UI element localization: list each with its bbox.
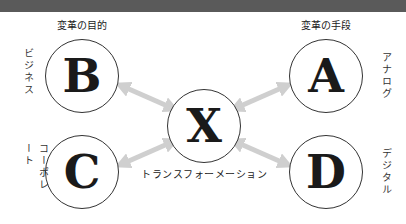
header-purpose: 変革の目的 [57,17,107,32]
node-c: C [45,135,119,209]
arrow-x-b [122,86,172,108]
node-a-letter: A [308,53,344,99]
node-a: A [289,39,363,113]
node-x-letter: X [186,103,222,149]
label-corporate: コーポレート [20,143,50,197]
diagram-canvas: 変革の目的 変革の手段 B ビジネス C コーポレート X トランスフォーメーシ… [0,0,406,224]
label-analog: アナログ [378,52,393,100]
node-c-letter: C [64,149,101,195]
arrow-x-a [236,86,286,108]
node-b: B [45,39,119,113]
arrow-x-d [236,142,286,164]
arrow-x-c [122,142,172,164]
node-b-letter: B [63,53,102,99]
label-digital: デジタル [378,148,393,196]
header-means: 変革の手段 [301,17,351,32]
node-d-letter: D [306,149,346,195]
label-business: ビジネス [20,48,35,96]
node-d: D [289,135,363,209]
caption-transformation: トランスフォーメーション [141,166,267,181]
node-x: X [167,89,241,163]
